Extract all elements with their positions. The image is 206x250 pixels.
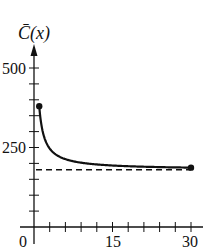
x-tick-label-30: 30 <box>182 234 198 250</box>
cost-curve <box>39 106 191 167</box>
start-point-marker <box>36 103 42 109</box>
x-tick-label-0: 0 <box>19 234 27 250</box>
y-axis-label: C̄(x) <box>18 24 50 42</box>
x-tick-label-15: 15 <box>105 234 121 250</box>
y-axis-label-text: C̄(x) <box>18 23 50 43</box>
y-tick-label-250: 250 <box>2 140 26 156</box>
y-axis-arrow-icon <box>31 44 38 56</box>
y-tick-label-500: 500 <box>2 61 26 77</box>
